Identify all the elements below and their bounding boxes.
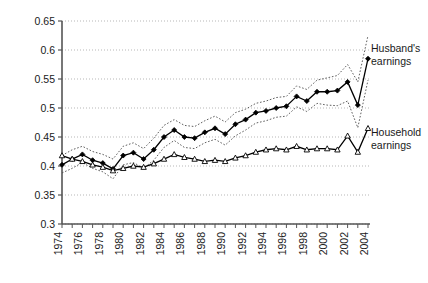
series-line xyxy=(62,59,368,169)
y-tick-label: 0.35 xyxy=(35,189,56,201)
household-earnings-label-line2: earnings xyxy=(371,139,411,151)
data-point-marker xyxy=(355,103,360,108)
x-tick-label: 2002 xyxy=(338,232,350,256)
x-tick-label: 1998 xyxy=(297,232,309,256)
y-axis-tick-labels: 0.30.350.40.450.50.550.60.65 xyxy=(35,15,56,230)
y-tick-label: 0.3 xyxy=(40,218,55,230)
data-point-marker xyxy=(80,152,85,157)
x-tick-label: 1994 xyxy=(256,232,268,256)
data-point-marker xyxy=(192,136,197,141)
series-annotations: Husband'searningsHouseholdearnings xyxy=(371,42,421,151)
x-tick-label: 1974 xyxy=(52,232,64,256)
x-tick-label: 2000 xyxy=(317,232,329,256)
earnings-inequality-line-chart: 0.30.350.40.450.50.550.60.65 19741976197… xyxy=(0,0,428,283)
x-tick-label: 1990 xyxy=(215,232,227,256)
x-tick-label: 1976 xyxy=(72,232,84,256)
x-tick-label: 1980 xyxy=(113,232,125,256)
data-point-marker xyxy=(345,133,350,138)
data-point-marker xyxy=(365,126,370,131)
y-tick-label: 0.55 xyxy=(35,73,56,85)
y-tick-label: 0.4 xyxy=(40,160,55,172)
data-point-marker xyxy=(366,56,371,61)
data-series xyxy=(59,56,370,173)
x-tick-label: 1982 xyxy=(134,232,146,256)
x-tick-label: 1988 xyxy=(195,232,207,256)
gridlines xyxy=(62,21,370,224)
chart-container: 0.30.350.40.450.50.550.60.65 19741976197… xyxy=(0,0,428,283)
x-tick-label: 1978 xyxy=(93,232,105,256)
y-tick-label: 0.5 xyxy=(40,102,55,114)
axes xyxy=(58,21,370,228)
series-line xyxy=(62,128,368,170)
x-tick-label: 1986 xyxy=(174,232,186,256)
y-tick-label: 0.45 xyxy=(35,131,56,143)
household-earnings-label-line1: Household xyxy=(371,126,421,138)
data-point-marker xyxy=(202,130,207,135)
confidence-band-upper xyxy=(62,36,368,160)
data-point-marker xyxy=(213,126,218,131)
data-point-marker xyxy=(264,108,269,113)
data-point-marker xyxy=(172,152,177,157)
x-axis-tick-labels: 1974197619781980198219841986198819901992… xyxy=(52,232,370,256)
x-tick-label: 2004 xyxy=(358,232,370,256)
x-tick-label: 1996 xyxy=(276,232,288,256)
data-point-marker xyxy=(325,89,330,94)
data-point-marker xyxy=(274,106,279,111)
data-point-marker xyxy=(294,143,299,148)
x-tick-label: 1992 xyxy=(236,232,248,256)
husband-earnings-label-line1: Husband's xyxy=(371,42,420,54)
husband-earnings-label-line2: earnings xyxy=(371,55,411,67)
x-tick-label: 1984 xyxy=(154,232,166,256)
data-point-marker xyxy=(59,153,64,158)
y-tick-label: 0.6 xyxy=(40,44,55,56)
y-tick-label: 0.65 xyxy=(35,15,56,27)
